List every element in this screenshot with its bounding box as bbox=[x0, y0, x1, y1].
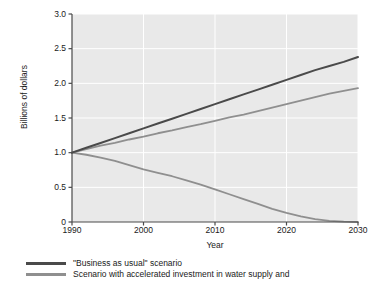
legend-swatch bbox=[26, 262, 66, 265]
x-axis-tick-label: 2020 bbox=[267, 225, 307, 235]
chart-legend: "Business as usual" scenarioScenario wit… bbox=[26, 258, 384, 280]
line-chart: Billions of dollars 00.51.01.52.02.53.0 … bbox=[0, 0, 384, 285]
legend-item: Scenario with accelerated investment in … bbox=[26, 269, 384, 280]
x-axis-title: Year bbox=[72, 240, 358, 250]
x-axis-tick-label: 2030 bbox=[338, 225, 378, 235]
x-axis-tick-label: 1990 bbox=[52, 225, 92, 235]
legend-item: "Business as usual" scenario bbox=[26, 258, 384, 269]
legend-label: "Business as usual" scenario bbox=[73, 258, 182, 269]
x-axis-tick-label: 2000 bbox=[124, 225, 164, 235]
legend-label: Scenario with accelerated investment in … bbox=[73, 269, 289, 280]
legend-swatch bbox=[26, 273, 66, 276]
x-axis-tick-label: 2010 bbox=[195, 225, 235, 235]
